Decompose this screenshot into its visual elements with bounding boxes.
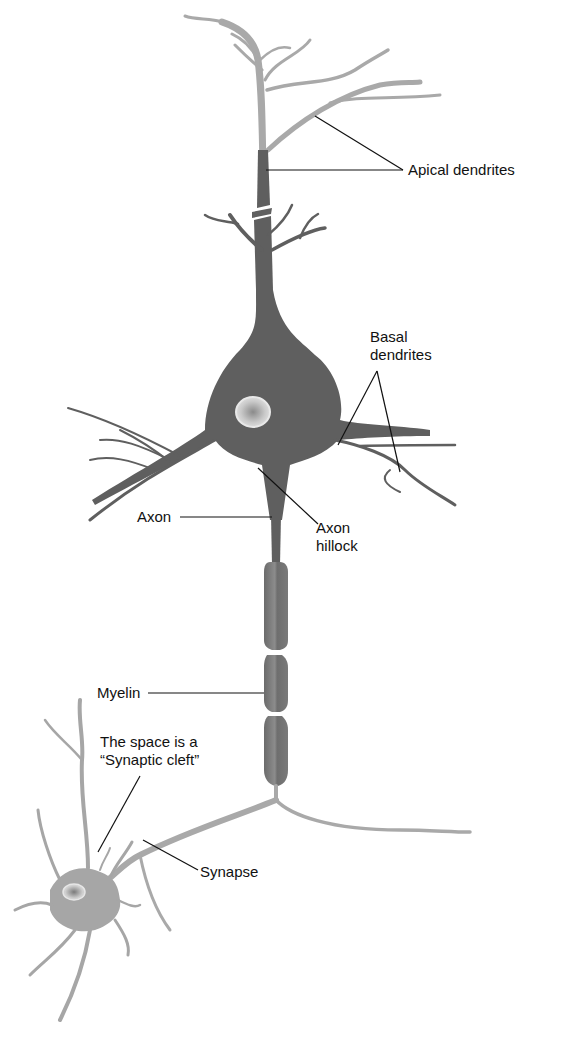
label-axon-hillock-line1: Axon [316, 519, 358, 537]
label-myelin: Myelin [97, 684, 140, 702]
axon-terminals [105, 786, 470, 930]
neuron-illustration [0, 0, 572, 1040]
label-axon-hillock-line2: hillock [316, 537, 358, 555]
apical-dendrites [185, 16, 440, 170]
apical-shaft [252, 150, 273, 290]
label-basal-line1: Basal [370, 328, 432, 346]
basal-dendrites-left [68, 408, 215, 520]
label-synapse: Synapse [200, 863, 258, 881]
label-axon: Axon [137, 508, 171, 526]
label-apical-dendrites: Apical dendrites [408, 161, 515, 179]
axon [271, 515, 281, 565]
neuron-diagram: Apical dendrites Basal dendrites Axon Ax… [0, 0, 572, 1040]
label-basal-line2: dendrites [370, 346, 432, 364]
label-synaptic-cleft-line1: The space is a [100, 733, 199, 751]
label-synaptic-cleft: The space is a “Synaptic cleft” [100, 733, 199, 769]
label-axon-hillock: Axon hillock [316, 519, 358, 555]
myelin-sheath [264, 562, 288, 786]
label-basal-dendrites: Basal dendrites [370, 328, 432, 364]
nucleus [236, 397, 270, 427]
label-synaptic-cleft-line2: “Synaptic cleft” [100, 751, 199, 769]
postsynaptic-nucleus [63, 884, 85, 900]
